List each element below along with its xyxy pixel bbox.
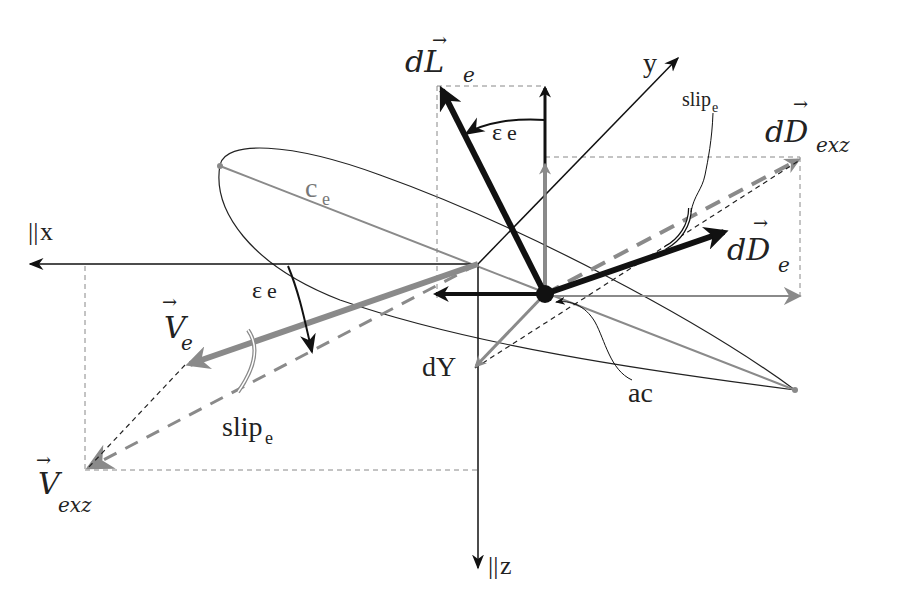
v-e-label: V → e	[162, 291, 193, 355]
svg-text:→: →	[432, 29, 447, 50]
svg-text:slip: slip	[682, 88, 711, 111]
trailing-edge-point	[792, 387, 798, 393]
slip-top-label: slip e	[682, 88, 718, 115]
svg-text:e: e	[507, 120, 517, 145]
svg-text:exz: exz	[58, 493, 92, 517]
dd-exz-label: dD → exz	[765, 93, 850, 157]
ac-label: ac	[628, 377, 653, 408]
aero-center-point	[536, 285, 554, 303]
svg-text:dD: dD	[765, 114, 808, 149]
svg-text:exz: exz	[816, 133, 850, 157]
svg-text:e: e	[322, 189, 330, 209]
dy-label: dY	[422, 351, 456, 382]
y-axis-label: y	[643, 47, 657, 78]
dd-e-vector	[545, 232, 724, 294]
svg-text:e: e	[712, 100, 718, 115]
epsilon-top-label: ε e	[492, 119, 517, 145]
svg-text:e: e	[267, 278, 277, 303]
v-e-vector	[190, 264, 478, 364]
svg-text:c: c	[305, 172, 317, 203]
svg-text:slip: slip	[222, 411, 262, 442]
svg-text:dD: dD	[727, 232, 770, 267]
force-vectors	[436, 88, 800, 368]
svg-text:ε: ε	[252, 277, 262, 303]
epsilon-arc-left	[288, 266, 312, 352]
epsilon-left-label: ε e	[252, 277, 277, 303]
v-exz-label: V → exz	[36, 449, 92, 517]
svg-text:ε: ε	[492, 119, 502, 145]
dd-e-label: dD → e	[727, 212, 790, 277]
svg-text:||: ||	[488, 551, 498, 580]
dl-e-label: dL → e	[405, 29, 475, 87]
svg-text:e: e	[778, 253, 790, 277]
slip-leader-line	[691, 113, 713, 212]
svg-text:||: ||	[28, 217, 38, 246]
svg-text:→: →	[36, 449, 51, 470]
svg-text:→: →	[793, 93, 808, 114]
svg-text:e: e	[181, 331, 193, 355]
z-axis-label: || z	[488, 551, 512, 580]
dy-vector	[476, 294, 545, 366]
epsilon-arc-top	[466, 120, 545, 134]
slip-arc-bottom	[238, 330, 254, 392]
svg-text:e: e	[265, 428, 273, 448]
svg-text:e: e	[463, 63, 475, 87]
svg-text:x: x	[40, 217, 53, 246]
leading-edge-point	[217, 163, 223, 169]
velocity-vectors	[88, 264, 478, 468]
svg-text:→: →	[162, 291, 177, 312]
axes	[30, 58, 678, 568]
ac-leader-line	[556, 302, 632, 380]
v-e-small-dashed	[88, 365, 185, 468]
x-axis-label: || x	[28, 217, 53, 246]
svg-text:→: →	[753, 212, 768, 233]
slip-bottom-label: slip e	[222, 411, 273, 448]
v-exz-dashed	[88, 264, 478, 468]
y-axis	[478, 58, 678, 264]
wing-force-diagram: || x || z y dL → e ε e slip e dD → exz d…	[0, 0, 899, 605]
svg-text:z: z	[500, 551, 512, 580]
